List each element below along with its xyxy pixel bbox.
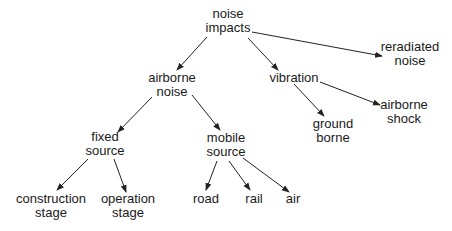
edge-root-reradiated bbox=[252, 32, 382, 56]
edge-mobile-road bbox=[206, 161, 217, 190]
edge-fixed-operation bbox=[114, 159, 126, 192]
node-rail: rail bbox=[245, 192, 262, 206]
node-ground-borne: ground borne bbox=[313, 117, 353, 145]
node-airborne-shock: airborne shock bbox=[380, 98, 428, 126]
node-reradiated-noise: reradiated noise bbox=[381, 40, 440, 68]
node-operation-stage: operation stage bbox=[101, 192, 155, 220]
edge-airborne-mobile bbox=[192, 95, 220, 130]
edge-mobile-rail bbox=[229, 161, 250, 190]
node-vibration: vibration bbox=[269, 71, 318, 85]
node-construction-stage: construction stage bbox=[16, 192, 86, 220]
edge-mobile-air bbox=[243, 158, 289, 192]
node-noise-impacts: noise impacts bbox=[206, 7, 251, 35]
node-fixed-source: fixed source bbox=[85, 130, 124, 158]
edge-fixed-construction bbox=[57, 159, 88, 190]
edge-vibration-ground bbox=[294, 84, 324, 116]
node-mobile-source: mobile source bbox=[206, 131, 245, 159]
edge-root-airborne bbox=[177, 37, 207, 70]
node-road: road bbox=[193, 192, 219, 206]
node-airborne-noise: airborne noise bbox=[148, 71, 196, 99]
node-air: air bbox=[286, 192, 300, 206]
edge-vibration-shock bbox=[320, 82, 380, 105]
edge-airborne-fixed bbox=[118, 97, 152, 132]
edge-root-vibration bbox=[248, 38, 278, 70]
